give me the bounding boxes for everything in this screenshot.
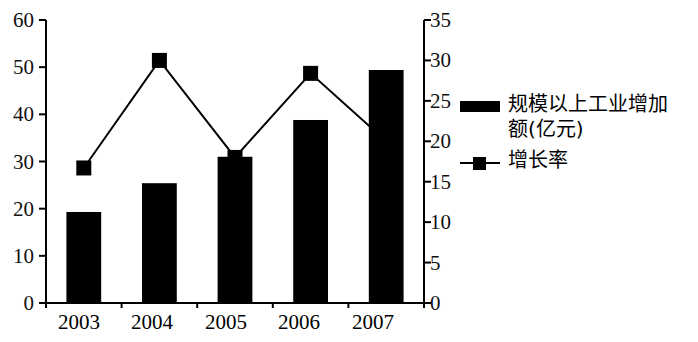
bar — [293, 120, 328, 303]
legend-item-line: 增长率 — [458, 148, 696, 173]
line-marker — [76, 160, 91, 175]
legend-label-bar-line2: 额(亿元) — [508, 117, 584, 141]
line-marker — [228, 150, 243, 165]
legend-label-bar: 规模以上工业增加 额(亿元) — [508, 92, 668, 142]
bar — [142, 183, 177, 303]
y-axis-right-ticks — [424, 20, 431, 303]
bar — [218, 157, 253, 303]
line-series — [76, 53, 393, 176]
legend-label-bar-line1: 规模以上工业增加 — [508, 92, 668, 116]
chart-container: 60 50 40 30 20 10 0 35 30 25 20 15 10 5 … — [0, 0, 698, 342]
bar — [369, 70, 404, 303]
bar-swatch-icon — [458, 95, 502, 117]
line-marker — [303, 66, 318, 81]
legend-label-line: 增长率 — [508, 148, 568, 173]
legend: 规模以上工业增加 额(亿元) 增长率 — [458, 92, 696, 175]
line-marker — [152, 53, 167, 68]
line-marker — [379, 134, 394, 149]
y-axis-left-ticks — [39, 20, 46, 303]
line-marker-swatch-icon — [458, 151, 502, 173]
bar — [66, 212, 101, 303]
bar-series — [66, 70, 403, 303]
legend-item-bar: 规模以上工业增加 额(亿元) — [458, 92, 696, 142]
